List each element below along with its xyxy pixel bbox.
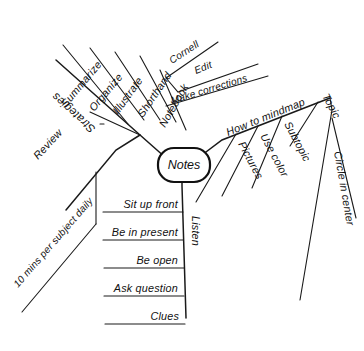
twig-base-strategies <box>90 112 140 135</box>
node-label-cornell: Cornell <box>167 38 201 66</box>
subbranch-notebook-children: Cornell Edit Make corrections <box>166 38 268 106</box>
branch-label-review: Review <box>31 126 65 162</box>
node-label-clues: Clues <box>150 310 179 322</box>
node-label-sit-up-front: Sit up front <box>123 198 178 210</box>
branch-how-to-mindmap: How to mindmap Pictures Use color Subtop… <box>196 91 357 300</box>
branch-listen: Listen Sit up front Be in present Be ope… <box>103 180 202 324</box>
branch-label-listen: Listen <box>190 216 202 246</box>
branch-strategies: Strategies Summarize Organize Illustrate… <box>49 38 268 158</box>
twig-line-circle-in-center-stem <box>300 98 332 300</box>
center-node-label: Notes <box>168 158 201 172</box>
center-node[interactable]: Notes <box>158 148 210 182</box>
node-label-be-in-present: Be in present <box>112 226 179 238</box>
mindmap-diagram: Strategies Summarize Organize Illustrate… <box>0 0 364 351</box>
node-label-be-open: Be open <box>136 254 178 266</box>
listen-spine <box>182 180 186 318</box>
mindmap-canvas: Strategies Summarize Organize Illustrate… <box>0 0 364 351</box>
node-label-ask-question: Ask question <box>113 282 178 294</box>
how-to-mindmap-spine <box>198 98 330 158</box>
node-label-edit: Edit <box>193 59 215 76</box>
node-label-circle-in-center: Circle in center <box>332 150 357 226</box>
node-label-subtopic: Subtopic <box>282 119 313 163</box>
